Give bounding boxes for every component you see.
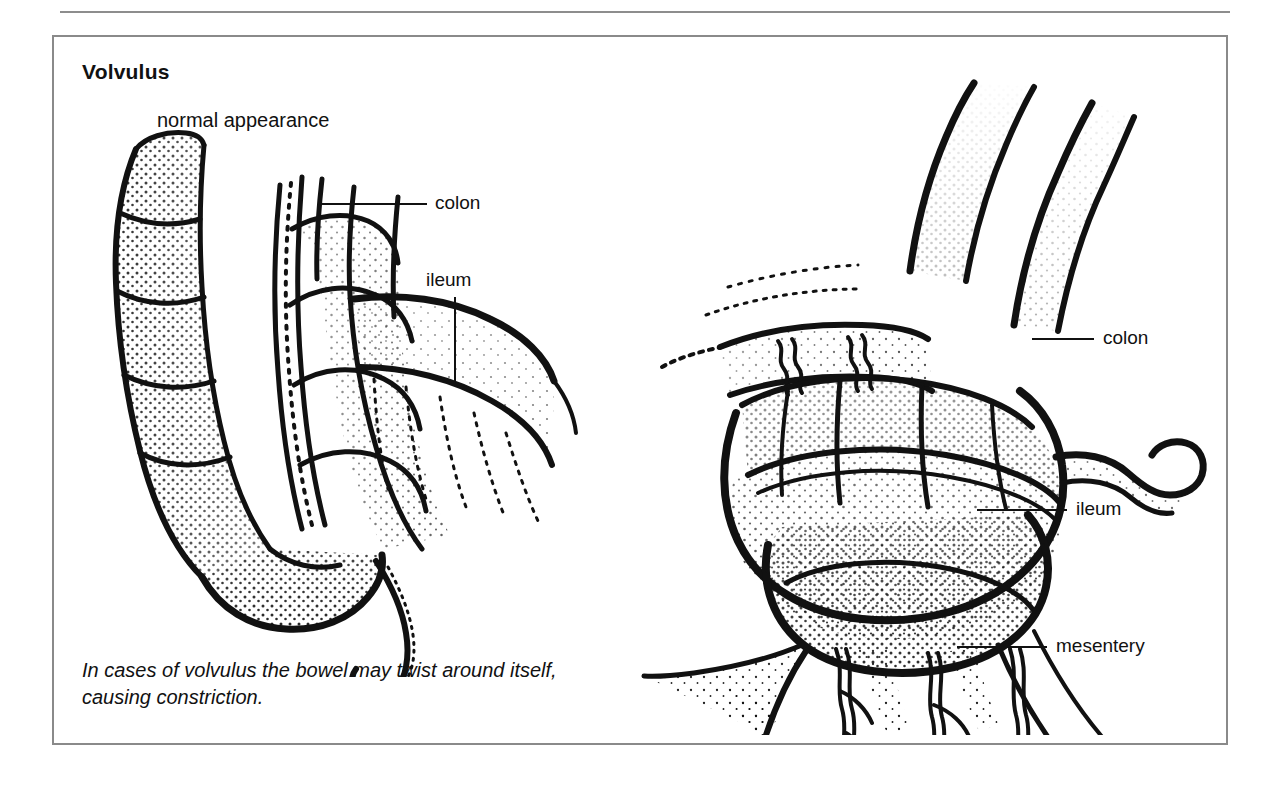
figure-caption: In cases of volvulus the bowel may twist… bbox=[82, 657, 622, 710]
leader-line-left-ileum bbox=[454, 297, 456, 383]
leader-line-left-colon bbox=[319, 203, 427, 205]
page-top-rule bbox=[60, 11, 1230, 13]
leader-line-right-mesentery bbox=[957, 646, 1047, 648]
leader-line-right-ileum bbox=[977, 509, 1067, 511]
label-right-ileum: ileum bbox=[1076, 498, 1121, 520]
label-left-colon: colon bbox=[435, 192, 480, 214]
normal-bowel-illustration bbox=[54, 37, 614, 677]
label-right-colon: colon bbox=[1103, 327, 1148, 349]
figure-box: Volvulus normal appearance bbox=[52, 35, 1228, 745]
label-left-ileum: ileum bbox=[426, 269, 471, 291]
label-right-mesentery: mesentery bbox=[1056, 635, 1145, 657]
leader-line-right-colon bbox=[1032, 338, 1094, 340]
